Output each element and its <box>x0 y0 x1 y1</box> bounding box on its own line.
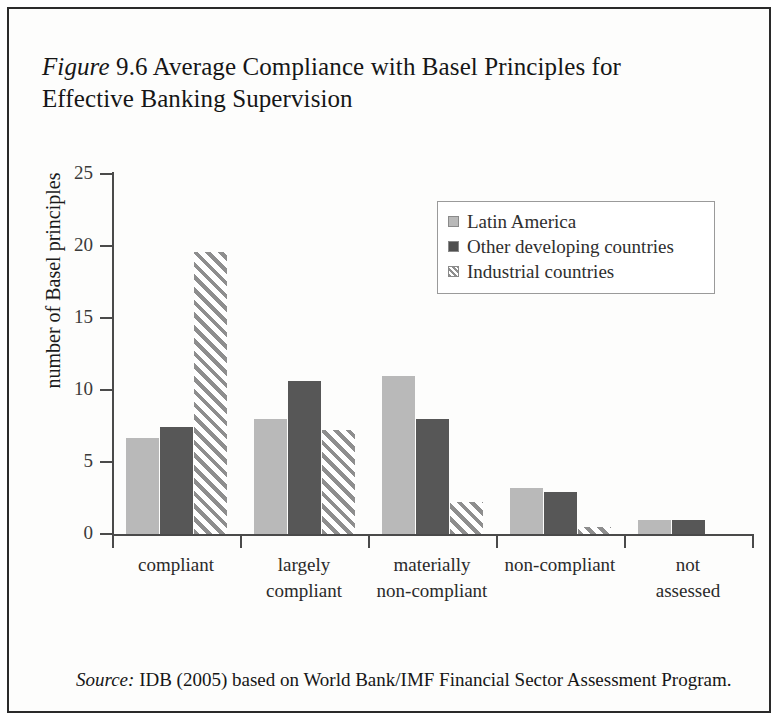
bar-1 <box>672 520 705 534</box>
bar-0 <box>126 438 159 534</box>
legend-label: Latin America <box>467 211 576 233</box>
x-axis-tick <box>240 536 242 548</box>
x-axis-label-line: not <box>610 552 766 578</box>
bar-group <box>126 174 227 534</box>
legend-label: Industrial countries <box>467 261 614 283</box>
bar-1 <box>288 381 321 534</box>
source-label: Source: <box>76 669 134 690</box>
legend-label: Other developing countries <box>467 236 674 258</box>
y-axis-tick-label: 0 <box>53 522 93 544</box>
source-text: IDB (2005) based on World Bank/IMF Finan… <box>139 669 731 690</box>
legend-swatch-icon <box>448 266 459 277</box>
chart-plot-wrapper: number of Basel principles 0510152025 co… <box>9 9 773 715</box>
legend-item: Other developing countries <box>448 234 704 259</box>
x-axis-line <box>112 534 754 536</box>
bar-1 <box>416 419 449 534</box>
x-axis-tick <box>112 536 114 548</box>
y-axis-tick-label: 15 <box>53 306 93 328</box>
bar-1 <box>160 427 193 534</box>
y-axis-title: number of Basel principles <box>42 151 65 411</box>
y-axis-tick-label: 5 <box>53 450 93 472</box>
y-axis-tick-label: 20 <box>53 234 93 256</box>
x-axis-tick <box>496 536 498 548</box>
bar-2 <box>322 430 355 534</box>
bar-2 <box>578 527 611 534</box>
legend-swatch-icon <box>448 241 459 252</box>
figure-frame: Figure 9.6 Average Compliance with Basel… <box>7 7 771 713</box>
x-axis-label-line: assessed <box>610 578 766 604</box>
bar-2 <box>450 502 483 534</box>
x-axis-tick <box>752 536 754 548</box>
bar-0 <box>382 376 415 534</box>
x-axis-tick <box>624 536 626 548</box>
bar-0 <box>638 520 671 534</box>
bar-0 <box>510 488 543 534</box>
bar-0 <box>254 419 287 534</box>
x-axis-label-line: non-compliant <box>354 578 510 604</box>
bar-1 <box>544 492 577 534</box>
bar-2 <box>194 252 227 534</box>
x-axis-tick <box>368 536 370 548</box>
x-axis-label: notassessed <box>610 552 766 603</box>
chart-legend: Latin AmericaOther developing countriesI… <box>437 201 715 294</box>
legend-swatch-icon <box>448 216 459 227</box>
legend-item: Industrial countries <box>448 259 704 284</box>
y-axis-tick-label: 25 <box>53 162 93 184</box>
legend-item: Latin America <box>448 209 704 234</box>
y-axis-tick-label: 10 <box>53 378 93 400</box>
bar-group <box>254 174 355 534</box>
source-note: Source: IDB (2005) based on World Bank/I… <box>42 666 742 694</box>
